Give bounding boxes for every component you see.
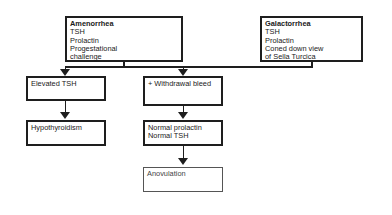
arrow-down-icon (60, 112, 70, 119)
withdrawal-bleed-box: + Withdrawal bleed (143, 76, 223, 106)
hypothyroidism-label: Hypothyroidism (31, 124, 101, 132)
horizontal-connector (65, 66, 313, 68)
arrow-down-icon (178, 112, 188, 119)
anovulation-box: Anovulation (143, 167, 223, 192)
hypothyroidism-box: Hypothyroidism (26, 120, 106, 146)
anovulation-label: Anovulation (147, 170, 219, 178)
left-connector-2 (65, 101, 67, 112)
withdrawal-bleed-label: + Withdrawal bleed (148, 80, 218, 88)
normal-tsh-label: Normal TSH (148, 132, 218, 140)
galactorrhea-box: Galactorrhea TSH Prolactin Coned down vi… (260, 16, 363, 62)
amenorrhea-title: Amenorrhea (70, 20, 178, 28)
elevated-tsh-label: Elevated TSH (31, 80, 101, 88)
amenorrhea-box: Amenorrhea TSH Prolactin Progestational … (65, 16, 183, 62)
arrow-down-icon (60, 69, 70, 76)
normal-results-box: Normal prolactin Normal TSH (143, 120, 223, 146)
arrow-down-icon (178, 158, 188, 165)
middle-connector-3 (183, 146, 185, 158)
elevated-tsh-box: Elevated TSH (26, 76, 106, 101)
arrow-down-icon (178, 69, 188, 76)
